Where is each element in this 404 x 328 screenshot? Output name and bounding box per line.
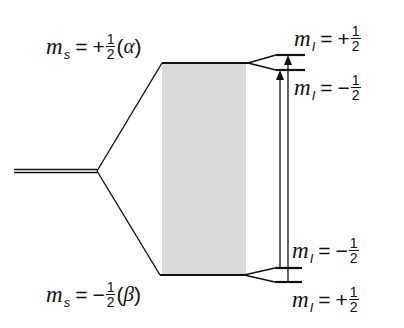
- sign: −: [338, 76, 350, 100]
- sign: +: [336, 288, 348, 312]
- label-mI-upper-minus: mI = − 12: [294, 73, 362, 102]
- sign: −: [336, 239, 348, 263]
- label-mI-lower-minus: mI = − 12: [292, 236, 360, 265]
- arrowhead-icon: [284, 55, 292, 65]
- arrowhead-icon: [276, 70, 284, 80]
- shaded-gap: [162, 63, 246, 275]
- hyperfine-split: [244, 268, 275, 275]
- subscript: I: [310, 251, 314, 266]
- hyperfine-split: [248, 55, 276, 63]
- symbol: m: [294, 75, 311, 101]
- symbol: m: [292, 238, 309, 264]
- equals: =: [320, 76, 332, 100]
- subscript: s: [64, 295, 71, 310]
- equals: =: [318, 288, 330, 312]
- fraction: 12: [106, 280, 116, 309]
- equals: =: [318, 239, 330, 263]
- equals: =: [75, 35, 87, 59]
- subscript: I: [312, 88, 316, 103]
- symbol: m: [294, 26, 311, 52]
- label-ms-beta: ms = − 12 (β): [46, 280, 141, 309]
- equals: =: [75, 283, 87, 307]
- sign: +: [338, 27, 350, 51]
- symbol: m: [46, 282, 63, 308]
- symbol: m: [292, 287, 309, 313]
- split-line-down: [97, 171, 160, 275]
- label-mI-upper-plus: mI = + 12: [294, 24, 362, 53]
- subscript: s: [64, 47, 71, 62]
- fraction: 12: [349, 285, 359, 314]
- fraction: 12: [106, 32, 116, 61]
- hyperfine-split: [248, 63, 276, 70]
- spin-label: α: [123, 34, 134, 59]
- fraction: 12: [351, 73, 361, 102]
- spin-label: β: [123, 282, 133, 307]
- subscript: I: [312, 39, 316, 54]
- fraction: 12: [351, 24, 361, 53]
- sign: +: [92, 35, 104, 59]
- split-line-up: [97, 63, 162, 171]
- sign: −: [92, 283, 104, 307]
- symbol: m: [46, 34, 63, 60]
- label-ms-alpha: ms = + 12 (α): [46, 32, 141, 61]
- label-mI-lower-plus: mI = + 12: [292, 285, 360, 314]
- subscript: I: [310, 300, 314, 315]
- fraction: 12: [349, 236, 359, 265]
- equals: =: [320, 27, 332, 51]
- hyperfine-split: [244, 275, 275, 282]
